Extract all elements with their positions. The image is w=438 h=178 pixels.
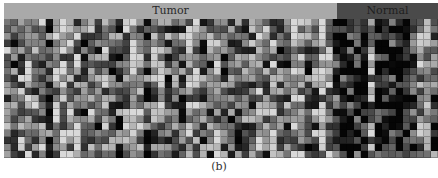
heatmap-cell — [221, 68, 228, 75]
heatmap-cell — [179, 116, 186, 123]
heatmap-cell — [340, 137, 347, 144]
heatmap-cell — [333, 61, 340, 68]
heatmap-cell — [165, 54, 172, 61]
heatmap-cell — [403, 116, 410, 123]
heatmap-cell — [347, 68, 354, 75]
heatmap-cell — [158, 82, 165, 89]
heatmap-cell — [130, 47, 137, 54]
heatmap-cell — [382, 102, 389, 109]
heatmap-cell — [102, 144, 109, 151]
heatmap-cell — [221, 137, 228, 144]
heatmap-cell — [32, 82, 39, 89]
heatmap-cell — [179, 33, 186, 40]
heatmap-cell — [424, 137, 431, 144]
heatmap-cell — [410, 130, 417, 137]
heatmap-cell — [123, 26, 130, 33]
heatmap-cell — [340, 68, 347, 75]
heatmap-cell — [242, 68, 249, 75]
heatmap-cell — [305, 144, 312, 151]
heatmap-cell — [249, 26, 256, 33]
heatmap-cell — [410, 137, 417, 144]
heatmap-cell — [235, 54, 242, 61]
heatmap-cell — [109, 68, 116, 75]
heatmap-cell — [165, 75, 172, 82]
heatmap-cell — [200, 75, 207, 82]
heatmap-cell — [256, 33, 263, 40]
heatmap-cell — [179, 19, 186, 26]
heatmap-cell — [130, 82, 137, 89]
heatmap-cell — [81, 123, 88, 130]
heatmap-cell — [130, 137, 137, 144]
heatmap-cell — [158, 88, 165, 95]
heatmap-cell — [151, 88, 158, 95]
heatmap-cell — [277, 61, 284, 68]
heatmap-cell — [375, 109, 382, 116]
heatmap-cell — [368, 151, 375, 158]
heatmap-cell — [151, 116, 158, 123]
heatmap-cell — [95, 95, 102, 102]
heatmap-cell — [95, 137, 102, 144]
heatmap-cell — [242, 116, 249, 123]
heatmap-cell — [424, 68, 431, 75]
heatmap-cell — [270, 144, 277, 151]
heatmap-cell — [368, 33, 375, 40]
heatmap-cell — [144, 123, 151, 130]
heatmap-cell — [368, 130, 375, 137]
heatmap-cell — [144, 109, 151, 116]
heatmap-cell — [18, 123, 25, 130]
heatmap-cell — [158, 95, 165, 102]
heatmap-cell — [165, 137, 172, 144]
heatmap-cell — [270, 137, 277, 144]
heatmap-cell — [403, 88, 410, 95]
heatmap-cell — [256, 144, 263, 151]
heatmap-cell — [235, 102, 242, 109]
heatmap-cell — [256, 75, 263, 82]
heatmap-cell — [333, 68, 340, 75]
heatmap-cell — [368, 75, 375, 82]
heatmap-cell — [333, 151, 340, 158]
heatmap-cell — [95, 88, 102, 95]
heatmap-cell — [291, 61, 298, 68]
heatmap-cell — [193, 123, 200, 130]
heatmap-cell — [424, 61, 431, 68]
heatmap-cell — [417, 54, 424, 61]
heatmap-cell — [144, 33, 151, 40]
heatmap-cell — [214, 75, 221, 82]
heatmap-cell — [221, 144, 228, 151]
heatmap-cell — [305, 88, 312, 95]
heatmap-cell — [382, 26, 389, 33]
heatmap-cell — [144, 88, 151, 95]
heatmap-cell — [102, 137, 109, 144]
heatmap-cell — [74, 88, 81, 95]
heatmap-cell — [431, 19, 438, 26]
heatmap-cell — [305, 151, 312, 158]
heatmap-cell — [130, 33, 137, 40]
heatmap-cell — [32, 33, 39, 40]
heatmap-cell — [116, 88, 123, 95]
heatmap-cell — [137, 26, 144, 33]
heatmap-cell — [312, 19, 319, 26]
heatmap-cell — [361, 144, 368, 151]
heatmap-cell — [424, 40, 431, 47]
heatmap-cell — [53, 116, 60, 123]
heatmap-cell — [67, 137, 74, 144]
heatmap-cell — [347, 151, 354, 158]
heatmap-cell — [410, 40, 417, 47]
heatmap-cell — [151, 26, 158, 33]
heatmap-cell — [319, 75, 326, 82]
heatmap-cell — [4, 26, 11, 33]
heatmap-cell — [403, 54, 410, 61]
heatmap-cell — [242, 123, 249, 130]
heatmap-cell — [11, 109, 18, 116]
heatmap-cell — [123, 40, 130, 47]
heatmap-cell — [382, 116, 389, 123]
heatmap-cell — [228, 47, 235, 54]
heatmap-cell — [284, 75, 291, 82]
heatmap-cell — [123, 68, 130, 75]
heatmap-cell — [151, 151, 158, 158]
heatmap-cell — [179, 26, 186, 33]
heatmap-cell — [172, 33, 179, 40]
heatmap-cell — [130, 88, 137, 95]
heatmap-cell — [123, 61, 130, 68]
heatmap-cell — [214, 61, 221, 68]
